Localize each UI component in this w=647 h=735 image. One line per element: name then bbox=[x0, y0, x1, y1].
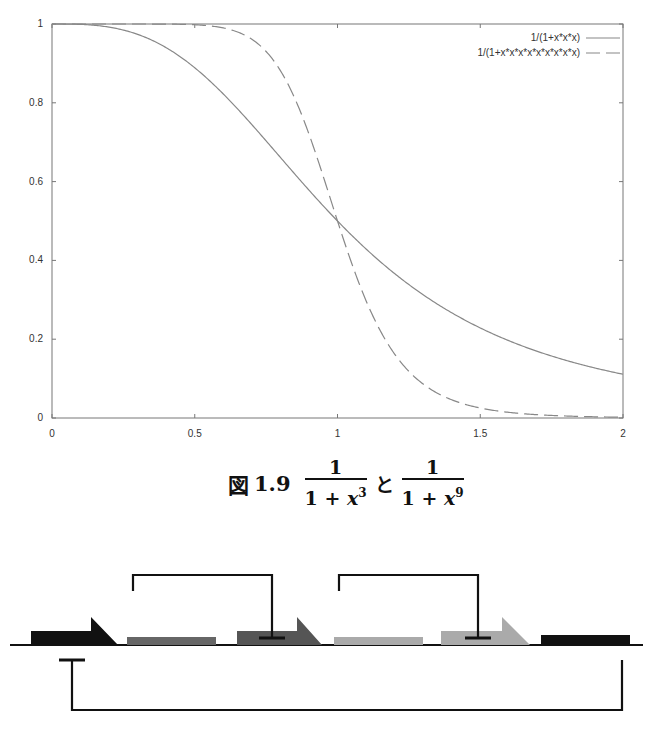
figure-label: 図 bbox=[228, 469, 250, 499]
figure-number: 1.9 bbox=[254, 471, 291, 496]
repression-3-to-1 bbox=[72, 660, 622, 710]
denominator: 1 + x9 bbox=[402, 480, 464, 511]
den-prefix: 1 + bbox=[402, 487, 444, 509]
y-tick-label: 0.4 bbox=[29, 254, 43, 265]
exponent: 9 bbox=[455, 486, 463, 500]
promoter-3 bbox=[441, 617, 530, 645]
y-tick-label: 0.6 bbox=[29, 176, 43, 187]
denominator: 1 + x3 bbox=[305, 480, 367, 511]
exponent: 3 bbox=[358, 486, 366, 500]
legend-label: 1/(1+x*x*x) bbox=[531, 32, 580, 43]
variable: x bbox=[444, 487, 455, 509]
gene-3 bbox=[541, 635, 630, 645]
repression-1-to-2 bbox=[133, 575, 272, 638]
fraction-x3: 1 1 + x3 bbox=[305, 456, 367, 511]
numerator: 1 bbox=[329, 456, 342, 478]
gene-1 bbox=[127, 637, 216, 645]
fraction-x9: 1 1 + x9 bbox=[402, 456, 464, 511]
repression-2-to-3 bbox=[339, 575, 478, 638]
legend: 1/(1+x*x*x)1/(1+x*x*x*x*x*x*x*x*x) bbox=[477, 32, 620, 58]
x-tick-label: 0 bbox=[49, 428, 55, 439]
gene-2 bbox=[334, 637, 423, 645]
promoters bbox=[31, 617, 530, 645]
x-tick-label: 2 bbox=[620, 428, 626, 439]
conjunction: と bbox=[375, 470, 394, 497]
variable: x bbox=[347, 487, 358, 509]
den-prefix: 1 + bbox=[305, 487, 347, 509]
x-tick-label: 1 bbox=[335, 428, 341, 439]
y-tick-label: 0.8 bbox=[29, 97, 43, 108]
curve-x3 bbox=[52, 24, 623, 374]
axis-ticks: 00.511.5200.20.40.60.81 bbox=[29, 18, 626, 439]
curve-x9 bbox=[52, 24, 623, 417]
x-tick-label: 1.5 bbox=[473, 428, 487, 439]
plot-curves bbox=[52, 24, 623, 417]
legend-label: 1/(1+x*x*x*x*x*x*x*x*x) bbox=[477, 47, 580, 58]
function-plot: 00.511.5200.20.40.60.81 1/(1+x*x*x)1/(1+… bbox=[0, 0, 647, 445]
promoter-2 bbox=[237, 617, 322, 645]
numerator: 1 bbox=[426, 456, 439, 478]
promoter-1 bbox=[31, 617, 118, 645]
figure-caption: 図 1.9 1 1 + x3 と 1 1 + x9 bbox=[0, 450, 647, 510]
genes bbox=[127, 635, 630, 645]
x-tick-label: 0.5 bbox=[188, 428, 202, 439]
y-tick-label: 0 bbox=[37, 412, 43, 423]
y-tick-label: 0.2 bbox=[29, 333, 43, 344]
gene-circuit-diagram bbox=[0, 560, 647, 735]
y-tick-label: 1 bbox=[37, 18, 43, 29]
